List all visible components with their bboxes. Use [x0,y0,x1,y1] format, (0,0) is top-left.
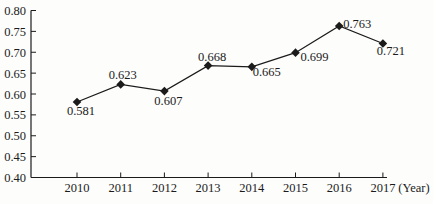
y-axis-tick-label: 0.80 [4,4,26,18]
data-point-label: 0.699 [300,50,328,64]
y-axis-tick-label: 0.75 [4,25,26,39]
line-chart-canvas: 0.400.450.500.550.600.650.700.750.802010… [0,0,433,204]
x-axis-tick-label: 2015 [283,181,308,195]
y-axis-tick-label: 0.50 [4,129,26,143]
x-axis-tick-label: 2017 [370,181,395,195]
y-axis-tick-label: 0.65 [4,67,26,81]
data-point-label: 0.581 [67,104,95,118]
data-point-label: 0.607 [154,94,182,108]
x-axis-tick-label: 2014 [239,181,265,195]
y-axis-tick-label: 0.45 [4,150,26,164]
y-axis-tick-label: 0.60 [4,88,26,102]
y-axis-tick-label: 0.40 [4,171,26,185]
data-point-label: 0.623 [109,68,137,82]
x-axis-tick-label: 2013 [196,181,221,195]
data-line [77,26,383,102]
x-axis-tick-label: 2010 [65,181,90,195]
y-axis-tick-label: 0.55 [4,108,26,122]
data-point-marker [291,48,300,57]
x-axis-tick-label: 2016 [327,181,352,195]
data-point-label: 0.665 [253,65,281,79]
y-axis-tick-label: 0.70 [4,46,26,60]
data-point-label: 0.763 [343,17,371,31]
x-axis-tick-label: 2012 [152,181,177,195]
data-point-label: 0.721 [377,44,405,58]
x-axis-tick-label: 2011 [108,181,133,195]
x-axis-unit-label: (Year) [398,181,429,195]
line-chart: 0.400.450.500.550.600.650.700.750.802010… [0,0,433,204]
data-point-label: 0.668 [198,50,226,64]
